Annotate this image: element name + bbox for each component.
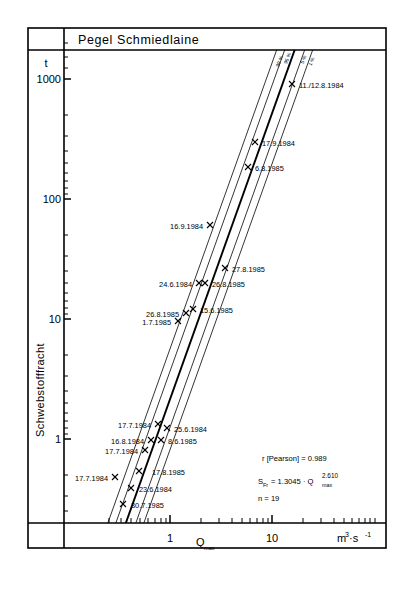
- data-point: [183, 310, 189, 316]
- data-point: [207, 222, 213, 228]
- yaxis-label: Schwebstofffracht: [34, 343, 46, 437]
- data-label: 25.6.1984: [174, 425, 207, 434]
- data-label: 17.7.1984: [75, 474, 108, 483]
- data-label: 17.7.1984: [118, 421, 151, 430]
- data-label: 1.7.1985: [142, 318, 171, 327]
- page-title: Pegel Schmiedlaine: [78, 33, 199, 47]
- data-point: [245, 164, 251, 170]
- data-point: [142, 447, 148, 453]
- frame-borders: [28, 28, 386, 548]
- band-label-group: 99 % 95 % 5 % 1 %: [274, 51, 315, 67]
- data-label: 17.7.1984: [105, 447, 138, 456]
- xaxis-unit-mid: ·s: [349, 532, 359, 544]
- xaxis-label-sub: max: [204, 545, 215, 551]
- data-label: 16.9.1984: [170, 222, 203, 231]
- ytick-100: 100: [43, 193, 61, 205]
- statistics-box: r [Pearson] = 0.989 S Fr = 1.3045 · Q ma…: [258, 454, 338, 503]
- data-label: 17.8.1985: [152, 468, 185, 477]
- data-point: [128, 485, 134, 491]
- data-point: [112, 474, 118, 480]
- xtick-10: 10: [266, 532, 278, 544]
- data-point: [155, 421, 161, 427]
- ytick-1000: 1000: [37, 73, 61, 85]
- xaxis-ticks: [109, 515, 375, 523]
- figure-root: Pegel Schmiedlaine t Schwebstofffracht 1…: [0, 0, 403, 598]
- data-label: 11./12.8.1984: [299, 81, 344, 90]
- data-label: 27.8.1985: [232, 265, 265, 274]
- equation-exponent: 2.610: [322, 472, 338, 479]
- data-point: [158, 437, 164, 443]
- equation-q-sub: max: [322, 482, 332, 488]
- yaxis-ticks: [64, 43, 71, 511]
- xtick-1: 1: [167, 532, 173, 544]
- data-point-labels: 11./12.8.1984 17.9.1984 6.8.1985 16.9.19…: [75, 81, 344, 510]
- chart-svg: Pegel Schmiedlaine t Schwebstofffracht 1…: [0, 0, 403, 598]
- confidence-band-95: [108, 35, 290, 545]
- data-label: 16.8.1984: [111, 437, 144, 446]
- regression-equation: S Fr = 1.3045 · Q max 2.610: [258, 472, 338, 488]
- regression-line: [118, 35, 300, 545]
- equation-body: = 1.3045 · Q: [271, 477, 314, 486]
- ytick-1: 1: [55, 433, 61, 445]
- data-label: 24.6.1984: [159, 280, 192, 289]
- data-label: 30.7.1985: [131, 501, 164, 510]
- confidence-band-99: [100, 35, 282, 545]
- equation-var-sub: Fr: [263, 482, 268, 488]
- ytick-10: 10: [49, 313, 61, 325]
- yaxis-unit: t: [44, 57, 47, 69]
- data-label: 8.6.1985: [168, 437, 197, 446]
- data-label: 6.8.1985: [255, 164, 284, 173]
- data-point: [202, 280, 208, 286]
- data-point: [136, 468, 142, 474]
- data-label: 15.6.1985: [200, 306, 233, 315]
- data-label: 23.6.1984: [139, 485, 172, 494]
- regression-lines: [100, 35, 318, 545]
- sample-size: n = 19: [258, 494, 279, 503]
- band-label-5: 5 %: [299, 54, 308, 65]
- data-point: [252, 139, 258, 145]
- data-label: 17.9.1984: [262, 139, 295, 148]
- data-point: [148, 437, 154, 443]
- data-label: 26.8.1985: [212, 280, 245, 289]
- band-label-1: 1 %: [307, 56, 316, 67]
- xaxis-unit-sup2: -1: [365, 531, 371, 538]
- xaxis-unit: m 3 ·s -1: [337, 531, 371, 544]
- pearson-value: r [Pearson] = 0.989: [262, 454, 327, 463]
- data-point: [164, 425, 170, 431]
